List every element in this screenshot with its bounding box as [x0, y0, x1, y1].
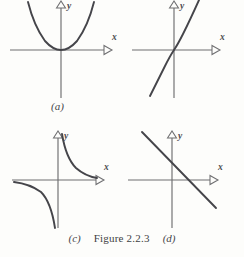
panel-c-label: (c) — [69, 232, 81, 244]
decreasing-line-curve — [142, 132, 216, 208]
figure-caption: Figure 2.2.3 — [94, 232, 150, 244]
x-axis-arrow-icon — [104, 46, 112, 55]
panel-c-plot: x y — [0, 128, 122, 240]
panel-a: x y (a) — [0, 0, 122, 112]
panel-d-plot: x y — [122, 128, 244, 240]
x-axis-label: x — [103, 162, 109, 172]
panel-d: x y — [122, 128, 244, 240]
panel-b: x y (b) — [122, 0, 244, 112]
panel-c: x y — [0, 128, 122, 240]
x-axis-label: x — [111, 32, 117, 42]
panel-a-plot: x y — [0, 0, 122, 112]
x-axis-arrow-icon — [212, 46, 220, 55]
y-axis-label: y — [179, 1, 185, 11]
y-axis-arrow-icon — [57, 1, 66, 8]
y-axis-label: y — [66, 1, 72, 11]
x-axis-label: x — [219, 32, 225, 42]
y-axis-label: y — [177, 131, 183, 141]
y-axis-arrow-icon — [168, 131, 177, 138]
y-axis-arrow-icon — [170, 1, 179, 8]
x-axis-label: x — [217, 162, 223, 172]
panel-a-label: (a) — [51, 100, 64, 112]
hyperbola-lower-branch — [14, 182, 55, 228]
panel-d-label: (d) — [163, 232, 176, 244]
x-axis-arrow-icon — [210, 176, 218, 185]
y-axis-label: y — [63, 131, 69, 141]
figure-sheet: x y (a) x y (b) x y — [0, 0, 244, 257]
panel-b-plot: x y — [122, 0, 244, 112]
x-axis-arrow-icon — [96, 176, 104, 185]
figure-caption-row: (c) Figure 2.2.3 (d) — [0, 228, 244, 248]
